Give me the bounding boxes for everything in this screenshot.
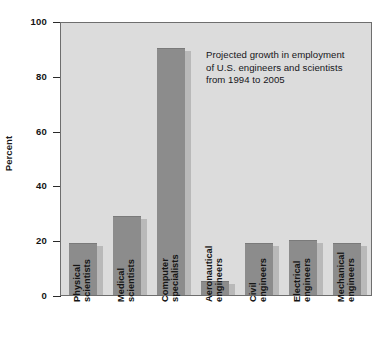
x-axis-label-line: scientists	[126, 212, 136, 302]
x-axis-label: Aeronauticalengineers	[204, 212, 220, 302]
y-axis-title: Percent	[3, 124, 14, 184]
annotation-line-3: from 1994 to 2005	[206, 74, 372, 87]
x-axis-label-line: Civil	[248, 212, 258, 302]
x-axis-label: Physicalscientists	[72, 212, 88, 302]
y-tick-label: 40	[13, 180, 47, 191]
x-axis-label-line: engineers	[346, 212, 356, 302]
annotation-line-2: of U.S. engineers and scientists	[206, 62, 372, 75]
x-axis-label-line: Aeronautical	[204, 212, 214, 302]
y-tick-label: 0	[13, 290, 47, 301]
x-axis-label-line: Physical	[72, 212, 82, 302]
x-axis-label-line: engineers	[214, 212, 224, 302]
chart-annotation: Projected growth in employment of U.S. e…	[206, 49, 372, 87]
y-tick-mark	[53, 296, 61, 297]
x-axis-label: Civilengineers	[248, 212, 264, 302]
x-axis-label-line: scientists	[82, 212, 92, 302]
x-axis-label: Mechanicalengineers	[336, 212, 352, 302]
y-tick-label: 60	[13, 126, 47, 137]
x-axis-label-line: Medical	[116, 212, 126, 302]
bar-chart: Percent 020406080100 Projected growth in…	[0, 0, 387, 364]
y-tick-label: 100	[13, 16, 47, 27]
x-axis-label: Electricalengineers	[292, 212, 308, 302]
x-axis-label-line: Computer	[160, 212, 170, 302]
x-axis-label-line: engineers	[302, 212, 312, 302]
x-axis-label-line: specialists	[170, 212, 180, 302]
y-tick-label: 20	[13, 235, 47, 246]
annotation-line-1: Projected growth in employment	[206, 49, 372, 62]
y-tick-label: 80	[13, 71, 47, 82]
x-axis-label-line: engineers	[258, 212, 268, 302]
x-axis-label-line: Electrical	[292, 212, 302, 302]
x-axis-label-line: Mechanical	[336, 212, 346, 302]
x-axis-label: Medicalscientists	[116, 212, 132, 302]
x-axis-label: Computerspecialists	[160, 212, 176, 302]
